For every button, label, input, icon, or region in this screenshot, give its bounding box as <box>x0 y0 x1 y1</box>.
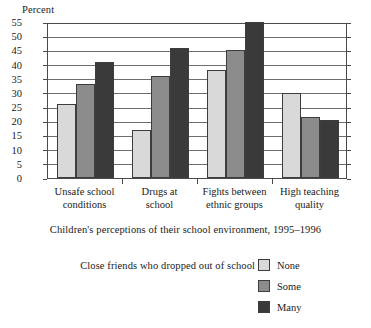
y-tick-mark-right-10 <box>347 150 351 151</box>
bar <box>170 48 189 178</box>
y-tick-mark-left-0 <box>43 179 47 180</box>
legend-label-many: Many <box>277 302 302 313</box>
x-axis-label-line: High teaching <box>255 186 365 199</box>
x-axis-label: High teachingquality <box>255 186 365 211</box>
y-tick-label-20: 20 <box>0 117 22 127</box>
y-tick-label-0: 0 <box>0 174 22 184</box>
y-tick-label-25: 25 <box>0 103 22 113</box>
y-tick-mark-left-45 <box>43 51 47 52</box>
bar-series-container <box>48 23 346 178</box>
bar <box>132 130 151 178</box>
legend-title: Close friends who dropped out of school <box>80 260 255 271</box>
bar-group <box>207 23 264 178</box>
bar <box>226 50 245 178</box>
y-tick-mark-left-25 <box>43 108 47 109</box>
y-tick-label-15: 15 <box>0 131 22 141</box>
bar <box>95 62 114 178</box>
y-tick-label-45: 45 <box>0 46 22 56</box>
y-tick-mark-right-25 <box>347 108 351 109</box>
bar <box>320 120 339 178</box>
y-tick-label-50: 50 <box>0 32 22 42</box>
chart-caption: Children's perceptions of their school e… <box>0 224 371 235</box>
y-tick-label-55: 55 <box>0 18 22 28</box>
y-tick-mark-right-5 <box>347 164 351 165</box>
legend-swatch-many <box>258 301 270 313</box>
y-tick-mark-right-50 <box>347 37 351 38</box>
y-tick-mark-right-0 <box>347 179 351 180</box>
x-tick-mark <box>197 179 198 184</box>
y-tick-label-35: 35 <box>0 75 22 85</box>
legend-swatch-some <box>258 280 270 292</box>
bar-group <box>282 23 339 178</box>
bar <box>151 76 170 178</box>
bar-group <box>132 23 189 178</box>
y-tick-mark-left-10 <box>43 150 47 151</box>
bar <box>245 22 264 178</box>
y-tick-mark-left-5 <box>43 164 47 165</box>
y-tick-mark-right-45 <box>347 51 351 52</box>
legend-label-some: Some <box>277 281 301 292</box>
y-tick-label-40: 40 <box>0 61 22 71</box>
y-tick-mark-left-35 <box>43 79 47 80</box>
y-tick-label-5: 5 <box>0 160 22 170</box>
bar <box>57 104 76 178</box>
y-tick-mark-left-40 <box>43 65 47 66</box>
bar <box>76 84 95 178</box>
y-tick-mark-right-35 <box>347 79 351 80</box>
legend-label-none: None <box>277 260 300 271</box>
y-tick-mark-right-55 <box>347 23 351 24</box>
bar <box>282 93 301 178</box>
bar-chart-figure: Percent Children's perceptions of their … <box>0 0 371 328</box>
y-tick-mark-right-40 <box>347 65 351 66</box>
x-tick-mark <box>122 179 123 184</box>
bar <box>207 70 226 178</box>
y-tick-mark-right-30 <box>347 93 351 94</box>
y-tick-mark-left-55 <box>43 23 47 24</box>
y-tick-mark-left-50 <box>43 37 47 38</box>
x-tick-mark <box>272 179 273 184</box>
y-tick-label-10: 10 <box>0 146 22 156</box>
y-tick-label-30: 30 <box>0 89 22 99</box>
y-axis-title: Percent <box>22 4 54 16</box>
legend-row: Some <box>0 279 371 300</box>
x-axis-label-line: quality <box>255 199 365 212</box>
plot-area <box>47 23 347 179</box>
y-tick-mark-right-20 <box>347 122 351 123</box>
legend-row: Many <box>0 300 371 321</box>
legend-swatch-none <box>258 259 270 271</box>
y-tick-mark-right-15 <box>347 136 351 137</box>
chart-legend: Close friends who dropped out of schoolN… <box>0 258 371 321</box>
bar <box>301 117 320 178</box>
y-tick-mark-left-20 <box>43 122 47 123</box>
y-tick-mark-left-15 <box>43 136 47 137</box>
bar-group <box>57 23 114 178</box>
legend-row: Close friends who dropped out of schoolN… <box>0 258 371 279</box>
y-tick-mark-left-30 <box>43 93 47 94</box>
